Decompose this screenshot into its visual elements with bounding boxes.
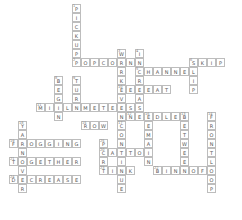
crossword-cell[interactable]: S [135, 103, 144, 112]
crossword-cell[interactable]: K [126, 166, 135, 175]
crossword-cell[interactable]: E [180, 157, 189, 166]
crossword-cell[interactable]: E [90, 103, 99, 112]
crossword-cell[interactable]: L [207, 157, 216, 166]
crossword-cell[interactable]: E [180, 121, 189, 130]
crossword-cell[interactable]: L [162, 112, 171, 121]
crossword-cell[interactable]: T [207, 148, 216, 157]
crossword-cell[interactable]: F14 [207, 112, 216, 121]
crossword-cell[interactable]: B22 [153, 166, 162, 175]
crossword-cell[interactable]: I [108, 166, 117, 175]
crossword-cell[interactable]: U [117, 175, 126, 184]
crossword-cell[interactable]: L [189, 67, 198, 76]
crossword-cell[interactable]: R [72, 157, 81, 166]
crossword-cell[interactable]: P [207, 184, 216, 193]
crossword-cell[interactable]: V [117, 94, 126, 103]
crossword-cell[interactable]: F19 [9, 139, 18, 148]
crossword-cell[interactable]: P25 [99, 139, 108, 148]
crossword-cell[interactable]: A [144, 139, 153, 148]
crossword-cell[interactable]: O [207, 166, 216, 175]
crossword-cell[interactable]: O [189, 166, 198, 175]
crossword-cell[interactable]: E [126, 85, 135, 94]
crossword-cell[interactable]: W3 [117, 49, 126, 58]
crossword-cell[interactable]: R [117, 67, 126, 76]
crossword-cell[interactable]: U [72, 85, 81, 94]
crossword-cell[interactable]: A [135, 94, 144, 103]
crossword-cell[interactable]: D [153, 112, 162, 121]
crossword-cell[interactable]: G [45, 139, 54, 148]
crossword-cell[interactable]: P [90, 58, 99, 67]
crossword-cell[interactable]: O [108, 58, 117, 67]
crossword-cell[interactable]: N [63, 139, 72, 148]
crossword-cell[interactable]: C20 [99, 148, 108, 157]
crossword-cell[interactable]: N [171, 67, 180, 76]
crossword-cell[interactable]: W [180, 139, 189, 148]
crossword-cell[interactable]: N [207, 139, 216, 148]
crossword-cell[interactable]: S [126, 103, 135, 112]
crossword-cell[interactable]: E10 [117, 85, 126, 94]
crossword-cell[interactable]: A [54, 175, 63, 184]
crossword-cell[interactable]: N [180, 166, 189, 175]
crossword-cell[interactable]: I4 [135, 49, 144, 58]
crossword-cell[interactable]: B13 [180, 112, 189, 121]
crossword-cell[interactable]: T [126, 148, 135, 157]
crossword-cell[interactable]: B8 [54, 76, 63, 85]
crossword-cell[interactable]: E [36, 157, 45, 166]
crossword-cell[interactable]: A [153, 85, 162, 94]
crossword-cell[interactable]: U [72, 40, 81, 49]
crossword-cell[interactable]: O [135, 148, 144, 157]
crossword-cell[interactable]: N [126, 58, 135, 67]
crossword-cell[interactable]: R [72, 94, 81, 103]
crossword-cell[interactable]: E [117, 184, 126, 193]
crossword-cell[interactable]: R [18, 139, 27, 148]
crossword-cell[interactable]: O [90, 121, 99, 130]
crossword-cell[interactable]: G [36, 139, 45, 148]
crossword-cell[interactable]: C [72, 22, 81, 31]
crossword-cell[interactable]: I [54, 139, 63, 148]
crossword-cell[interactable]: O [18, 157, 27, 166]
crossword-cell[interactable]: I [117, 157, 126, 166]
crossword-cell[interactable]: E [180, 67, 189, 76]
crossword-cell[interactable]: I [162, 166, 171, 175]
crossword-cell[interactable]: E [171, 112, 180, 121]
crossword-cell[interactable]: T [117, 148, 126, 157]
crossword-cell[interactable]: I [72, 13, 81, 22]
crossword-cell[interactable]: E [144, 85, 153, 94]
crossword-cell[interactable]: T9 [72, 76, 81, 85]
crossword-cell[interactable]: G [27, 157, 36, 166]
crossword-cell[interactable]: M [81, 103, 90, 112]
crossword-cell[interactable]: E [45, 175, 54, 184]
crossword-cell[interactable]: V [18, 166, 27, 175]
crossword-cell[interactable]: N [162, 67, 171, 76]
crossword-cell[interactable]: E [135, 85, 144, 94]
crossword-cell[interactable]: S6 [189, 58, 198, 67]
crossword-cell[interactable]: H [54, 157, 63, 166]
crossword-cell[interactable]: C17 [117, 121, 126, 130]
crossword-cell[interactable]: R [18, 184, 27, 193]
crossword-cell[interactable]: E16 [144, 112, 153, 121]
crossword-cell[interactable]: E [135, 112, 144, 121]
crossword-cell[interactable]: E [117, 103, 126, 112]
crossword-cell[interactable]: C5 [135, 67, 144, 76]
crossword-cell[interactable]: N [54, 112, 63, 121]
crossword-cell[interactable]: A [18, 130, 27, 139]
crossword-cell[interactable]: N [117, 139, 126, 148]
crossword-cell[interactable]: I [54, 103, 63, 112]
crossword-cell[interactable]: L [63, 103, 72, 112]
crossword-cell[interactable]: N [171, 166, 180, 175]
crossword-cell[interactable]: G [72, 139, 81, 148]
crossword-cell[interactable]: E [54, 85, 63, 94]
crossword-cell[interactable]: T [99, 103, 108, 112]
crossword-cell[interactable]: R [117, 58, 126, 67]
crossword-cell[interactable]: O [117, 130, 126, 139]
crossword-cell[interactable]: I [189, 76, 198, 85]
crossword-cell[interactable]: R [36, 175, 45, 184]
crossword-cell[interactable]: I [144, 148, 153, 157]
crossword-cell[interactable]: E [63, 157, 72, 166]
crossword-cell[interactable]: K [72, 31, 81, 40]
crossword-cell[interactable]: E [18, 175, 27, 184]
crossword-cell[interactable]: T [45, 157, 54, 166]
crossword-cell[interactable]: P1 [72, 4, 81, 13]
crossword-cell[interactable]: N [135, 58, 144, 67]
crossword-cell[interactable]: N [144, 157, 153, 166]
crossword-cell[interactable]: K [117, 76, 126, 85]
